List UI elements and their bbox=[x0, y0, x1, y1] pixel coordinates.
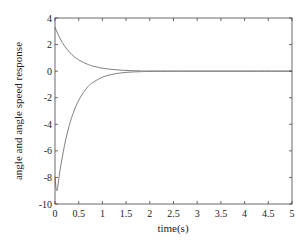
y-tick-label: -2 bbox=[44, 92, 52, 103]
x-tick-label: 5 bbox=[290, 208, 295, 219]
x-tick-label: 1.5 bbox=[120, 208, 133, 219]
axes-frame bbox=[55, 18, 292, 204]
y-tick-label: -4 bbox=[44, 119, 52, 130]
x-tick-label: 0 bbox=[53, 208, 58, 219]
y-tick-label: -8 bbox=[44, 172, 52, 183]
x-axis-label: time(s) bbox=[157, 222, 188, 235]
x-axis-ticks: 00.511.522.533.544.55 bbox=[53, 18, 295, 219]
y-tick-label: 4 bbox=[47, 13, 52, 24]
series-layer bbox=[55, 27, 292, 190]
x-tick-label: 4 bbox=[242, 208, 247, 219]
x-tick-label: 3 bbox=[195, 208, 200, 219]
x-tick-label: 1 bbox=[100, 208, 105, 219]
y-tick-label: 0 bbox=[47, 66, 52, 77]
x-tick-label: 4.5 bbox=[262, 208, 275, 219]
line-chart: 00.511.522.533.544.55 420-2-4-6-8-10 tim… bbox=[0, 0, 308, 248]
series-line-angle bbox=[55, 27, 292, 71]
x-tick-label: 2 bbox=[147, 208, 152, 219]
y-tick-label: 2 bbox=[47, 39, 52, 50]
y-tick-label: -6 bbox=[44, 145, 52, 156]
x-tick-label: 3.5 bbox=[215, 208, 228, 219]
x-tick-label: 0.5 bbox=[72, 208, 85, 219]
y-axis-label: angle and angle speed response bbox=[12, 42, 24, 180]
x-tick-label: 2.5 bbox=[167, 208, 180, 219]
series-line-angle-speed bbox=[55, 71, 292, 191]
y-axis-ticks: 420-2-4-6-8-10 bbox=[39, 13, 292, 210]
y-tick-label: -10 bbox=[39, 199, 52, 210]
